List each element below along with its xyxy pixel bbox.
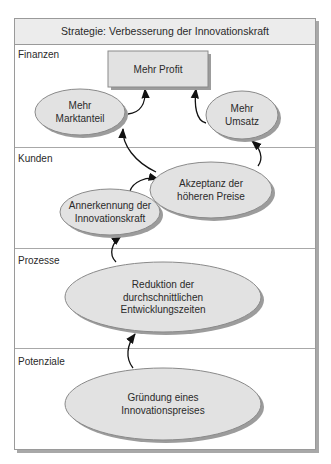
- node-label: Marktanteil: [56, 113, 105, 124]
- node-label: Mehr: [69, 100, 92, 111]
- node-label: Akzeptanz der: [179, 178, 244, 189]
- node-label: Entwicklungszeiten: [120, 304, 205, 315]
- node-reduktion: Reduktion derdurchschnittlichenEntwicklu…: [65, 262, 264, 335]
- node-gruendung: Gründung einesInnovationspreises: [65, 368, 264, 443]
- arrow-akzeptanz-to-umsatz: [252, 141, 261, 166]
- node-annerkennung: Annerkennung derInnovationskraft: [60, 189, 163, 238]
- arrow-marktanteil-to-profit: [128, 89, 145, 114]
- node-label: Mehr Profit: [134, 64, 183, 75]
- node-label: höheren Preise: [177, 191, 245, 202]
- node-label: Innovationskraft: [75, 213, 146, 224]
- node-label: Annerkennung der: [69, 200, 152, 211]
- arrow-reduktion-to-annerkennung: [112, 236, 121, 262]
- node-profit: Mehr Profit: [108, 51, 211, 90]
- node-akzeptanz: Akzeptanz derhöheren Preise: [150, 162, 275, 221]
- strategy-diagram: Mehr ProfitMehrMarktanteilMehrUmsatzAkze…: [0, 0, 331, 464]
- node-label: durchschnittlichen: [123, 292, 203, 303]
- node-umsatz: MehrUmsatz: [206, 91, 281, 142]
- node-marktanteil: MehrMarktanteil: [35, 89, 128, 138]
- arrow-umsatz-to-profit: [195, 89, 206, 123]
- node-label: Gründung eines: [127, 392, 198, 403]
- node-label: Mehr: [231, 103, 254, 114]
- arrow-akzeptanz-to-marktanteil: [123, 129, 156, 172]
- node-label: Innovationspreises: [121, 405, 204, 416]
- node-label: Reduktion der: [132, 279, 195, 290]
- node-label: Umsatz: [225, 116, 259, 127]
- arrow-gruendung-to-reduktion: [128, 334, 135, 368]
